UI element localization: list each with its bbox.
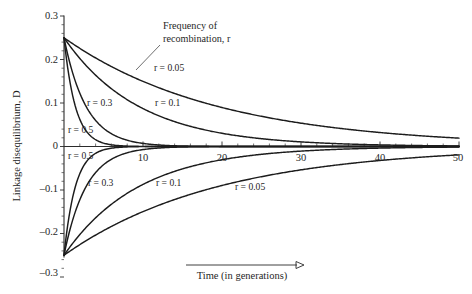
x-axis-title: Time (in generations)	[197, 270, 288, 282]
curves-group	[64, 38, 459, 256]
chart-svg: 0.3 0.2 0.1 0 –0.1 –0.2 –0.3 10 20 30 40…	[0, 0, 472, 294]
ytick-label--0.3: –0.3	[39, 267, 58, 278]
curve-label-r01-bottom: r = 0.1	[156, 177, 182, 188]
curve-label-r05-bottom: r = 0.5	[68, 150, 94, 161]
xtick-label-50: 50	[453, 152, 464, 163]
curve-r-0-5-negative-	[64, 147, 459, 256]
curve-label-r005-top: r = 0.05	[154, 62, 184, 73]
curve-r-0-1-positive-	[64, 38, 459, 146]
ytick-label-0.2: 0.2	[45, 54, 58, 65]
chart-figure: 0.3 0.2 0.1 0 –0.1 –0.2 –0.3 10 20 30 40…	[0, 0, 472, 294]
xtick-label-10: 10	[138, 152, 149, 163]
xtick-label-40: 40	[375, 152, 386, 163]
curve-label-r05-top: r = 0.5	[68, 124, 94, 135]
xtick-label-20: 20	[217, 152, 228, 163]
ytick-label--0.1: –0.1	[39, 183, 58, 194]
curve-r-0-1-negative-	[64, 147, 459, 255]
curve-label-r03-bottom: r = 0.3	[88, 177, 114, 188]
curve-r-0-5-positive-	[64, 38, 459, 147]
ytick-label-0.1: 0.1	[45, 97, 58, 108]
curve-r-0-3-negative-	[64, 147, 459, 256]
curve-r-0-05-negative-	[64, 155, 459, 255]
curve-r-0-3-positive-	[64, 38, 459, 147]
curve-label-r03-top: r = 0.3	[87, 97, 113, 108]
ytick-label-0: 0	[53, 140, 58, 151]
y-ticks-group	[60, 16, 64, 277]
xtick-label-30: 30	[296, 152, 307, 163]
annotation-line-2: recombination, r	[163, 33, 231, 44]
x-axis-title-arrow-head	[296, 262, 304, 269]
curve-r-0-05-positive-	[64, 38, 459, 138]
curve-label-r01-top: r = 0.1	[155, 97, 181, 108]
ytick-label--0.2: –0.2	[39, 226, 58, 237]
ytick-label-0.3: 0.3	[45, 10, 58, 21]
y-axis-title: Linkage disequilibrium, D	[11, 90, 22, 202]
annotation-line-1: Frequency of	[163, 20, 218, 31]
curve-label-r005-bottom: r = 0.05	[235, 181, 265, 192]
x-axis-title-group: Time (in generations)	[186, 262, 304, 283]
